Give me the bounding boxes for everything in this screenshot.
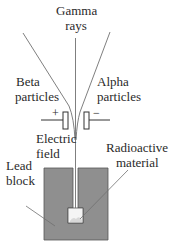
- alpha-label-line1: Alpha: [97, 74, 141, 89]
- beta-label-line2: particles: [15, 89, 59, 104]
- electric-label-line2: field: [36, 146, 76, 161]
- negative-plate: [84, 112, 89, 129]
- lead-label-line1: Lead: [6, 158, 35, 173]
- gamma-label-line1: Gamma: [56, 3, 96, 18]
- alpha-label-line2: particles: [97, 89, 141, 104]
- gamma-label-line2: rays: [56, 18, 96, 33]
- electric-label-line1: Electric: [36, 131, 76, 146]
- radioactive-material-label: Radioactive material: [106, 140, 168, 170]
- lead-label-line2: block: [6, 173, 35, 188]
- plus-sign: +: [52, 106, 59, 121]
- radioactive-label-line2: material: [116, 155, 168, 170]
- gamma-rays-label: Gamma rays: [56, 3, 96, 33]
- diagram-canvas: [0, 0, 169, 247]
- minus-sign: −: [93, 106, 100, 121]
- electric-field-label: Electric field: [36, 131, 76, 161]
- beta-particles-label: Beta particles: [16, 74, 59, 104]
- positive-plate: [63, 112, 68, 129]
- lead-block-label: Lead block: [6, 158, 35, 188]
- lead-block: [44, 168, 108, 240]
- alpha-particles-label: Alpha particles: [97, 74, 141, 104]
- radioactive-label-line1: Radioactive: [106, 140, 168, 155]
- beta-label-line1: Beta: [16, 74, 59, 89]
